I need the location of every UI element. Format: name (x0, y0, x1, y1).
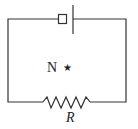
star-marker-icon: ★ (63, 63, 72, 73)
box-component (59, 15, 67, 24)
resistor-label: R (66, 111, 75, 125)
resistor-zigzag (43, 97, 90, 108)
point-label-n: N (47, 61, 57, 75)
wire-top-right (73, 19, 126, 102)
